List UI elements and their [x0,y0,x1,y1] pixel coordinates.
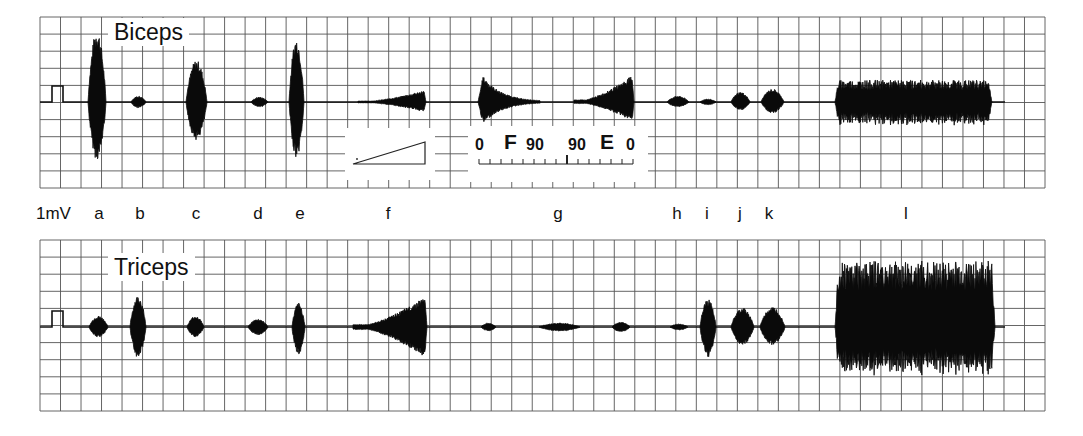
emg-burst-g1 [478,77,540,121]
emg-burst-b [130,297,146,356]
emg-burst-i [700,99,716,105]
biceps-title: Biceps [108,18,189,46]
emg-burst-j [731,309,754,345]
emg-burst-g2 [574,77,634,118]
emg-burst-h [667,96,689,107]
ramp-legend [345,128,435,180]
triceps-title: Triceps [108,253,195,281]
emg-burst-g1 [481,323,496,331]
condition-label-k: k [765,204,774,224]
emg-burst-d [248,319,268,334]
emg-burst-b [131,96,146,107]
emg-burst-e [292,303,305,354]
condition-label-l: l [904,204,908,224]
condition-label-g: g [553,204,562,224]
emg-burst-k [761,89,784,112]
condition-label-c: c [192,204,201,224]
emg-burst-a [88,39,106,159]
emg-burst-h [670,324,688,330]
angle-scale-ruler [468,126,648,182]
condition-label-j: j [738,204,742,224]
condition-label-h: h [672,204,681,224]
emg-burst-k [760,308,785,345]
ramp-triangle-icon [345,128,435,180]
condition-label-i: i [705,204,709,224]
triceps-panel: Triceps [0,224,1083,436]
emg-burst-e [289,43,304,157]
condition-label-f: f [386,204,391,224]
condition-label-a: a [94,204,103,224]
calibration-label: 1mV [36,204,71,224]
biceps-panel: Biceps 0 F 90 90 E 0 [0,0,1083,200]
emg-burst-j [731,93,750,110]
angle-scale: 0 F 90 90 E 0 [468,126,648,182]
emg-burst-c [187,317,204,337]
emg-burst-l [835,80,992,125]
emg-burst-a [89,316,108,337]
condition-label-d: d [253,204,262,224]
emg-burst-f [353,300,427,356]
condition-label-e: e [295,204,304,224]
emg-burst-g2 [539,323,580,331]
emg-burst-l [835,261,995,375]
condition-label-b: b [135,204,144,224]
